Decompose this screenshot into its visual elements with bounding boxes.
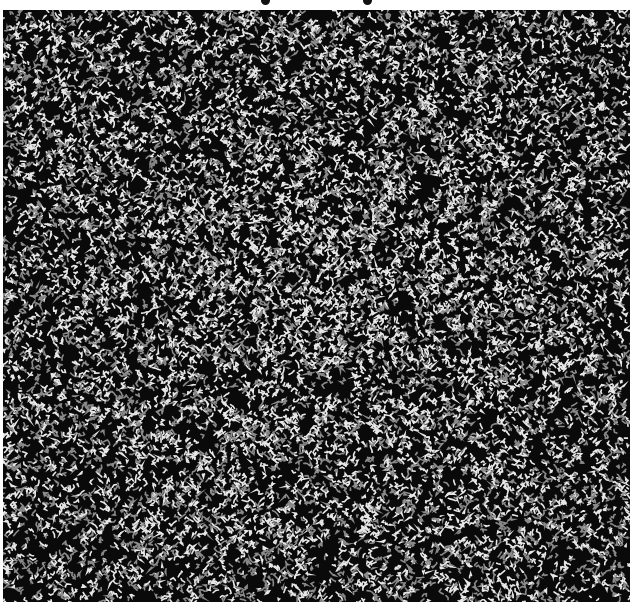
autostereogram-pattern — [3, 10, 630, 602]
image-description: Random-dot squiggle autostereogram with … — [0, 0, 1, 1]
guide-dot-left — [261, 0, 270, 5]
guide-dot-right — [363, 0, 372, 5]
